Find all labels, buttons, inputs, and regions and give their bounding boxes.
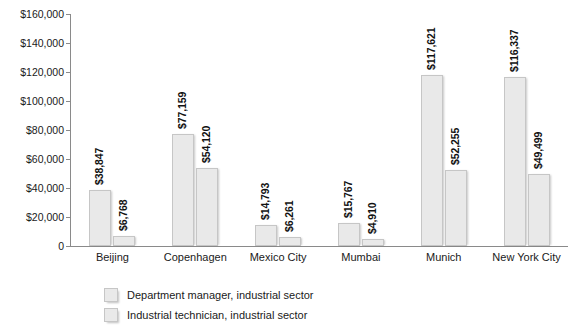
bar-group: $77,159$54,120 — [172, 14, 218, 246]
legend-item[interactable]: Department manager, industrial sector — [104, 286, 434, 304]
clipped-chart-title — [0, 0, 575, 4]
bar-value-label: $14,793 — [260, 182, 271, 219]
bar-group: $116,337$49,499 — [504, 14, 550, 246]
bar-group: $14,793$6,261 — [255, 14, 301, 246]
x-axis-label: Munich — [426, 250, 461, 264]
bar-value-label: $116,337 — [508, 30, 519, 72]
bar-value-label: $77,159 — [177, 92, 188, 129]
legend-label: Industrial technician, industrial sector — [127, 308, 307, 322]
x-axis-label: Mexico City — [250, 250, 307, 264]
bar-value-label: $6,261 — [284, 200, 295, 232]
y-axis-tick-label: $100,000 — [20, 95, 64, 107]
bar-value-label: $6,768 — [118, 200, 129, 232]
bar[interactable]: $77,159 — [172, 134, 194, 246]
bar[interactable]: $15,767 — [338, 223, 360, 246]
bar[interactable]: $116,337 — [504, 77, 526, 246]
y-axis-tick-label: $80,000 — [26, 124, 64, 136]
legend-item[interactable]: Industrial technician, industrial sector — [104, 306, 434, 324]
y-axis-tick-label: $120,000 — [20, 66, 64, 78]
bar[interactable]: $117,621 — [421, 75, 443, 246]
plot-area: $38,847$6,768$77,159$54,120$14,793$6,261… — [71, 14, 568, 246]
bar-group: $15,767$4,910 — [338, 14, 384, 246]
legend-swatch-icon — [104, 288, 118, 302]
bar-chart: $160,000$140,000$120,000$100,000$80,000$… — [0, 0, 575, 329]
bar-value-label: $49,499 — [532, 132, 543, 169]
x-axis-label: Mumbai — [341, 250, 380, 264]
bar[interactable]: $6,768 — [113, 236, 135, 246]
bar[interactable]: $38,847 — [89, 190, 111, 246]
bar-value-label: $38,847 — [94, 147, 105, 184]
bar-value-label: $117,621 — [425, 28, 436, 70]
chart-legend: Department manager, industrial sectorInd… — [104, 286, 434, 326]
y-axis-tick-label: 0 — [58, 240, 64, 252]
y-axis-tick-label: $40,000 — [26, 182, 64, 194]
bar[interactable]: $14,793 — [255, 225, 277, 246]
bar-group: $117,621$52,255 — [421, 14, 467, 246]
y-axis-tick-label: $140,000 — [20, 37, 64, 49]
bar-value-label: $15,767 — [342, 181, 353, 218]
x-axis-label: Copenhagen — [164, 250, 227, 264]
legend-swatch-icon — [104, 308, 118, 322]
bar-value-label: $4,910 — [366, 202, 377, 234]
bar[interactable]: $49,499 — [528, 174, 550, 246]
bar[interactable]: $52,255 — [445, 170, 467, 246]
x-axis-category-labels: BeijingCopenhagenMexico CityMumbaiMunich… — [71, 250, 568, 268]
bar-value-label: $52,255 — [449, 128, 460, 165]
x-axis-label: Beijing — [96, 250, 129, 264]
bar-value-label: $54,120 — [201, 125, 212, 162]
y-axis-tick-label: $20,000 — [26, 211, 64, 223]
x-axis-label: New York City — [492, 250, 560, 264]
legend-label: Department manager, industrial sector — [127, 288, 313, 302]
bar-group: $38,847$6,768 — [89, 14, 135, 246]
bar[interactable]: $6,261 — [279, 237, 301, 246]
bar[interactable]: $54,120 — [196, 168, 218, 246]
bar[interactable]: $4,910 — [362, 239, 384, 246]
y-axis-tick-labels: $160,000$140,000$120,000$100,000$80,000$… — [0, 8, 64, 252]
y-axis-tick-label: $60,000 — [26, 153, 64, 165]
y-axis-tick-label: $160,000 — [20, 8, 64, 20]
x-axis-line — [70, 246, 568, 247]
